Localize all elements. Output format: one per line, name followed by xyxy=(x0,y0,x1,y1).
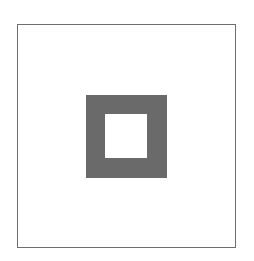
square-ring xyxy=(86,95,167,178)
square-hole xyxy=(105,114,147,158)
